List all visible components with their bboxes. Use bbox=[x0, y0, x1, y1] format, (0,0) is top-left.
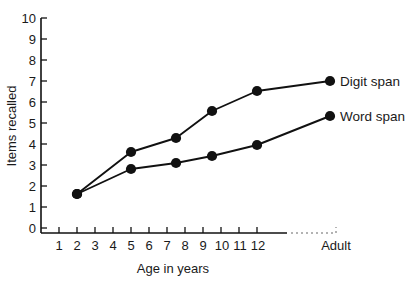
legend-label-word-span: Word span bbox=[340, 109, 405, 124]
y-tick-label: 7 bbox=[29, 74, 36, 89]
word-span-point bbox=[207, 151, 217, 161]
y-tick-label: 3 bbox=[29, 158, 36, 173]
x-tick-label: 6 bbox=[145, 238, 152, 253]
x-tick-label: 11 bbox=[233, 238, 247, 253]
x-tick-label: 9 bbox=[199, 238, 206, 253]
word-span-point bbox=[171, 158, 181, 168]
x-tick-label: 1 bbox=[55, 238, 62, 253]
x-tick-label: 2 bbox=[73, 238, 80, 253]
x-axis-title: Age in years bbox=[137, 261, 210, 276]
x-tick-label-adult: Adult bbox=[321, 238, 351, 253]
word-span-line bbox=[77, 116, 330, 194]
word-span-point bbox=[252, 140, 262, 150]
y-tick-label: 8 bbox=[29, 53, 36, 68]
series-word-span bbox=[72, 111, 335, 199]
digit-span-point bbox=[252, 86, 262, 96]
x-tick-label: 10 bbox=[215, 238, 229, 253]
y-tick-label: 0 bbox=[29, 221, 36, 236]
x-tick-label: 12 bbox=[251, 238, 265, 253]
x-axis-tick-labels: 1 2 3 4 5 6 7 8 9 10 11 12 Adult bbox=[55, 238, 351, 253]
y-tick-label: 6 bbox=[29, 95, 36, 110]
word-span-point bbox=[126, 164, 136, 174]
legend-label-digit-span: Digit span bbox=[340, 74, 400, 89]
chart-container: 10 9 8 7 6 5 4 3 2 1 0 bbox=[0, 0, 406, 296]
y-axis-ticks bbox=[41, 18, 47, 228]
y-axis-tick-labels: 10 9 8 7 6 5 4 3 2 1 0 bbox=[22, 11, 36, 236]
y-tick-label: 2 bbox=[29, 179, 36, 194]
y-tick-label: 1 bbox=[29, 200, 36, 215]
y-tick-label: 4 bbox=[29, 137, 36, 152]
digit-span-point bbox=[126, 147, 136, 157]
series-digit-span bbox=[72, 76, 335, 199]
y-axis-title: Items recalled bbox=[4, 86, 19, 167]
digit-span-point bbox=[171, 133, 181, 143]
x-tick-label: 5 bbox=[127, 238, 134, 253]
line-chart: 10 9 8 7 6 5 4 3 2 1 0 bbox=[0, 0, 406, 296]
x-axis-ticks bbox=[59, 227, 257, 233]
x-tick-label: 7 bbox=[163, 238, 170, 253]
y-tick-label: 5 bbox=[29, 116, 36, 131]
digit-span-point bbox=[207, 106, 217, 116]
x-tick-label: 4 bbox=[109, 238, 116, 253]
word-span-point bbox=[72, 189, 82, 199]
y-tick-label: 9 bbox=[29, 32, 36, 47]
word-span-endpoint bbox=[325, 111, 335, 121]
y-tick-label: 10 bbox=[22, 11, 36, 26]
x-tick-label: 3 bbox=[91, 238, 98, 253]
x-tick-label: 8 bbox=[181, 238, 188, 253]
digit-span-endpoint bbox=[325, 76, 335, 86]
